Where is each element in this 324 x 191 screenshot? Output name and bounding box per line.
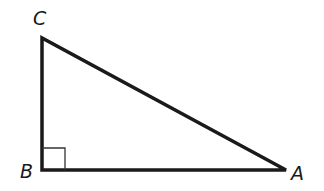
vertex-label-a: A <box>289 162 304 184</box>
vertex-label-b: B <box>20 160 33 182</box>
right-angle-marker <box>42 148 65 170</box>
triangle-diagram: C B A <box>0 0 324 191</box>
triangle-abc <box>42 38 286 170</box>
vertex-label-c: C <box>33 7 47 29</box>
